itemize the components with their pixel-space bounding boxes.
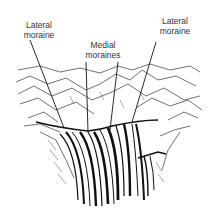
mountain-ridges xyxy=(16,64,202,178)
glacier-illustration xyxy=(0,0,212,217)
glacier-body xyxy=(60,124,154,206)
leader-lines xyxy=(30,40,156,132)
